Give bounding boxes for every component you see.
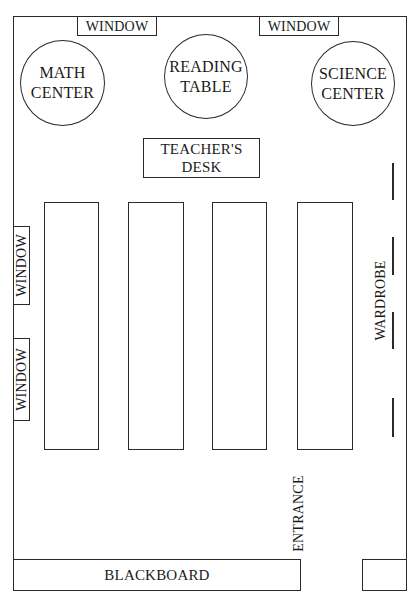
wardrobe-label: WARDROBE	[372, 260, 389, 340]
top-window-left: WINDOW	[77, 16, 157, 36]
teachers-desk-line1: TEACHER'S	[160, 140, 242, 158]
math-center-line2: CENTER	[31, 83, 94, 103]
corner-cabinet	[362, 559, 407, 591]
student-desk-row-4	[297, 202, 353, 450]
science-center: SCIENCE CENTER	[311, 41, 395, 126]
left-window-lower: WINDOW	[13, 338, 30, 421]
math-center-line1: MATH	[31, 63, 94, 83]
science-center-label: SCIENCE CENTER	[319, 64, 387, 104]
teachers-desk-label: TEACHER'S DESK	[160, 140, 242, 176]
blackboard-label: BLACKBOARD	[104, 567, 209, 584]
science-center-line2: CENTER	[319, 84, 387, 104]
reading-table: READING TABLE	[164, 34, 248, 119]
window-label: WINDOW	[86, 18, 149, 35]
window-label: WINDOW	[268, 18, 331, 35]
teachers-desk-line2: DESK	[160, 158, 242, 176]
entrance-area: ENTRANCE	[258, 503, 338, 523]
wardrobe-divider-segment	[392, 312, 394, 349]
top-window-right: WINDOW	[259, 16, 339, 36]
wardrobe-divider-segment	[392, 398, 394, 437]
teachers-desk: TEACHER'S DESK	[143, 138, 260, 178]
student-desk-row-2	[128, 202, 184, 450]
math-center-label: MATH CENTER	[31, 63, 94, 103]
science-center-line1: SCIENCE	[319, 64, 387, 84]
wardrobe-divider-segment	[392, 163, 394, 200]
blackboard: BLACKBOARD	[13, 559, 301, 591]
student-desk-row-1	[44, 202, 99, 450]
wardrobe-divider-segment	[392, 237, 394, 275]
window-label: WINDOW	[13, 348, 30, 411]
entrance-label: ENTRANCE	[289, 475, 306, 551]
math-center: MATH CENTER	[20, 40, 105, 126]
student-desk-row-3	[212, 202, 267, 450]
reading-table-line1: READING	[169, 57, 242, 77]
left-window-upper: WINDOW	[13, 226, 30, 305]
wardrobe-area: WARDROBE	[340, 290, 417, 310]
reading-table-line2: TABLE	[169, 77, 242, 97]
reading-table-label: READING TABLE	[169, 57, 242, 97]
window-label: WINDOW	[13, 234, 30, 297]
